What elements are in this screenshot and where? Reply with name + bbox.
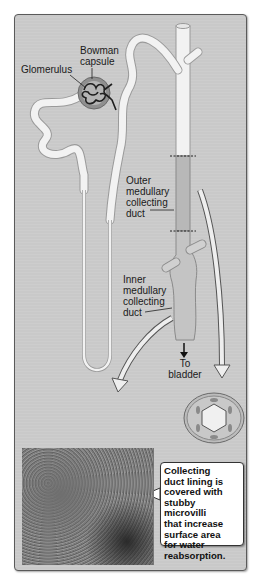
label-inner-line2: medullary xyxy=(123,285,166,296)
label-outer-line3: collecting xyxy=(126,197,169,208)
label-bowman-line2: capsule xyxy=(80,56,119,67)
label-outer-line2: medullary xyxy=(126,186,169,197)
label-bladder-line1: To xyxy=(168,358,202,369)
duct-cross-section xyxy=(184,393,244,443)
label-inner-line4: duct xyxy=(123,307,166,318)
callout-line: reabsorption. xyxy=(164,551,240,562)
arrow-down-icon xyxy=(180,343,188,358)
label-glomerulus: Glomerulus xyxy=(21,64,72,75)
label-inner-medullary: Inner medullary collecting duct xyxy=(123,274,166,318)
label-bowman: Bowman capsule xyxy=(80,45,119,67)
callout-line: that increase xyxy=(164,519,240,530)
label-bowman-line1: Bowman xyxy=(80,45,119,56)
callout-box: Collecting duct lining is covered with s… xyxy=(160,462,244,546)
callout-line: Collecting xyxy=(164,466,240,477)
collecting-duct xyxy=(166,24,202,341)
label-inner-line3: collecting xyxy=(123,296,166,307)
label-to-bladder: To bladder xyxy=(168,358,202,380)
label-outer-line1: Outer xyxy=(126,175,169,186)
label-inner-line1: Inner xyxy=(123,274,166,285)
label-bladder-line2: bladder xyxy=(168,369,202,380)
label-outer-medullary: Outer medullary collecting duct xyxy=(126,175,169,219)
micrograph-image xyxy=(22,448,154,565)
callout-line: stubby microvilli xyxy=(164,498,240,519)
curved-arrow-icon xyxy=(200,190,230,378)
label-outer-line4: duct xyxy=(126,208,169,219)
curved-arrow-icon xyxy=(112,318,172,392)
